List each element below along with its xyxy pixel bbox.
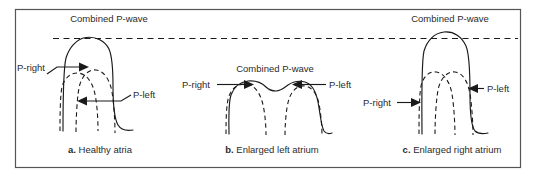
- panel-a-p-left-label: P-left: [133, 89, 156, 100]
- ecg-p-wave-figure: Combined P-wave P-right P-left a. Health…: [0, 0, 536, 177]
- panel-c-caption-letter: c.: [403, 144, 411, 155]
- panel-c-combined-label: Combined P-wave: [411, 13, 489, 24]
- panel-a-caption-text: Healthy atria: [76, 144, 133, 155]
- panel-c-p-left-label: P-left: [487, 83, 510, 94]
- figure-canvas: Combined P-wave P-right P-left a. Health…: [0, 0, 536, 177]
- panel-a-p-right-label: P-right: [17, 62, 45, 73]
- panel-a-caption-letter: a.: [68, 144, 76, 155]
- panel-b-caption-letter: b.: [225, 144, 233, 155]
- panel-b-caption-text: Enlarged left atrium: [234, 144, 319, 155]
- panel-b-caption: b. Enlarged left atrium: [225, 144, 319, 155]
- panel-c-caption-text: Enlarged right atrium: [411, 144, 502, 155]
- panel-a-combined-label: Combined P-wave: [70, 13, 148, 24]
- panel-c-p-right-label: P-right: [363, 97, 391, 108]
- panel-c-caption: c. Enlarged right atrium: [403, 144, 502, 155]
- panel-b-p-left-label: P-left: [329, 79, 352, 90]
- panel-b-combined-label: Combined P-wave: [236, 63, 314, 74]
- panel-a-caption: a. Healthy atria: [68, 144, 133, 155]
- panel-b-p-right-label: P-right: [182, 79, 210, 90]
